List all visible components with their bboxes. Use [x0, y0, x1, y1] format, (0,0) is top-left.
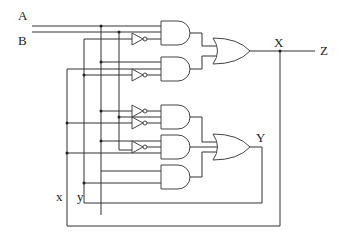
or-gate-1	[213, 38, 250, 64]
label-input-a: A	[18, 9, 27, 22]
and-gate-4	[161, 135, 190, 159]
label-output-y: Y	[256, 131, 265, 144]
wire	[190, 33, 216, 46]
inverter-icon	[132, 117, 147, 129]
label-output-x: X	[274, 36, 283, 49]
inverter-icon	[132, 105, 147, 117]
wire	[190, 117, 216, 142]
and-gate-5	[161, 165, 190, 189]
wire	[190, 152, 216, 177]
label-feedback-y: y	[77, 190, 84, 203]
or-gate-2	[213, 134, 250, 160]
inverter-icon	[132, 141, 147, 153]
inverter-icon	[132, 33, 147, 45]
label-input-b: B	[18, 34, 27, 47]
wire	[190, 56, 216, 69]
inverter-icon	[132, 69, 147, 81]
and-gate-3	[161, 105, 190, 129]
label-output-z: Z	[320, 44, 328, 57]
logic-circuit	[0, 0, 341, 238]
label-feedback-x: x	[56, 190, 63, 203]
and-gate-2	[161, 57, 190, 81]
and-gate-1	[161, 21, 190, 45]
